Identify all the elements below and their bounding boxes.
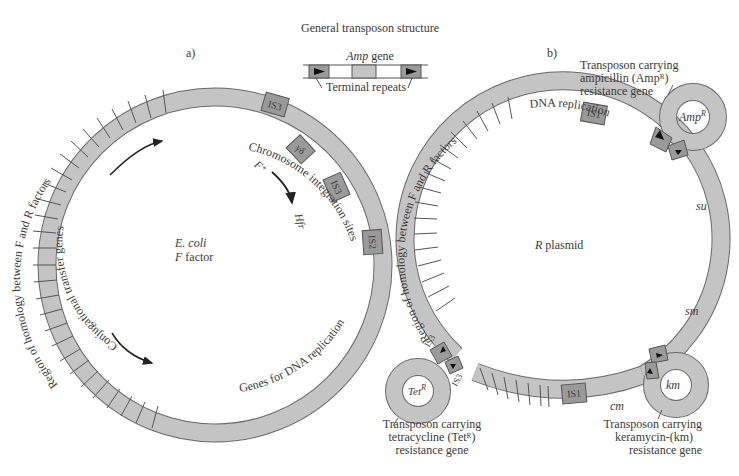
figure-title: General transposon structure — [301, 21, 439, 35]
terminal-repeats-label: Terminal repeats — [326, 80, 406, 94]
r-plasmid-label: R plasmid — [534, 238, 583, 252]
amp-caption-2: ampicillin (Ampᴿ) — [580, 71, 669, 85]
amp-caption-1: Transposon carrying — [580, 58, 679, 72]
km-loop-label: km — [666, 378, 680, 392]
amp-loop-label: AmpR — [678, 109, 706, 124]
f-factor-label: F factor — [174, 250, 213, 264]
svg-text:IS2: IS2 — [367, 235, 379, 250]
tet-caption-1: Transposon carrying — [383, 417, 482, 431]
panel-a-f-factor: a) — [9, 46, 383, 433]
dna-replication-label-b: DNA replication — [529, 96, 612, 120]
ecoli-label: E. coli — [174, 236, 206, 250]
transposon-diagram: General transposon structure Amp gene Te… — [0, 0, 739, 476]
km-caption-1: Transposon carrying — [603, 417, 702, 431]
transfer-arrow-icon — [112, 333, 152, 363]
gene-cm: cm — [610, 399, 624, 413]
panel-b-label: b) — [547, 46, 557, 60]
gene-sm: sm — [685, 304, 699, 318]
km-caption-2: keramycin-(km) — [615, 430, 693, 444]
amp-caption-3: resistance gene — [580, 84, 653, 98]
tet-loop-label: TetR — [408, 383, 426, 397]
km-caption-3: resistance gene — [629, 443, 702, 457]
f-to-hfr-arrow-icon — [272, 172, 292, 203]
panel-b-r-plasmid: b) — [383, 46, 721, 457]
tet-transposon: IS3 IS3 TetR Transposon carrying tetracy… — [383, 333, 482, 457]
transfer-arrow-icon — [110, 141, 162, 175]
gene-su: su — [696, 199, 707, 213]
f-plus-label: F⁺ — [252, 158, 270, 176]
amp-gene-label: Amp gene — [345, 49, 394, 63]
general-transposon-structure: Amp gene Terminal repeats — [303, 49, 428, 94]
tet-caption-2: tetracycline (Tetᴿ) — [388, 430, 475, 444]
hfr-label: Hfr — [293, 211, 309, 231]
svg-text:IS3: IS3 — [450, 372, 465, 388]
tet-caption-3: resistance gene — [396, 443, 469, 457]
panel-a-label: a) — [186, 46, 195, 60]
is1-bottom: IS1 — [567, 387, 582, 399]
